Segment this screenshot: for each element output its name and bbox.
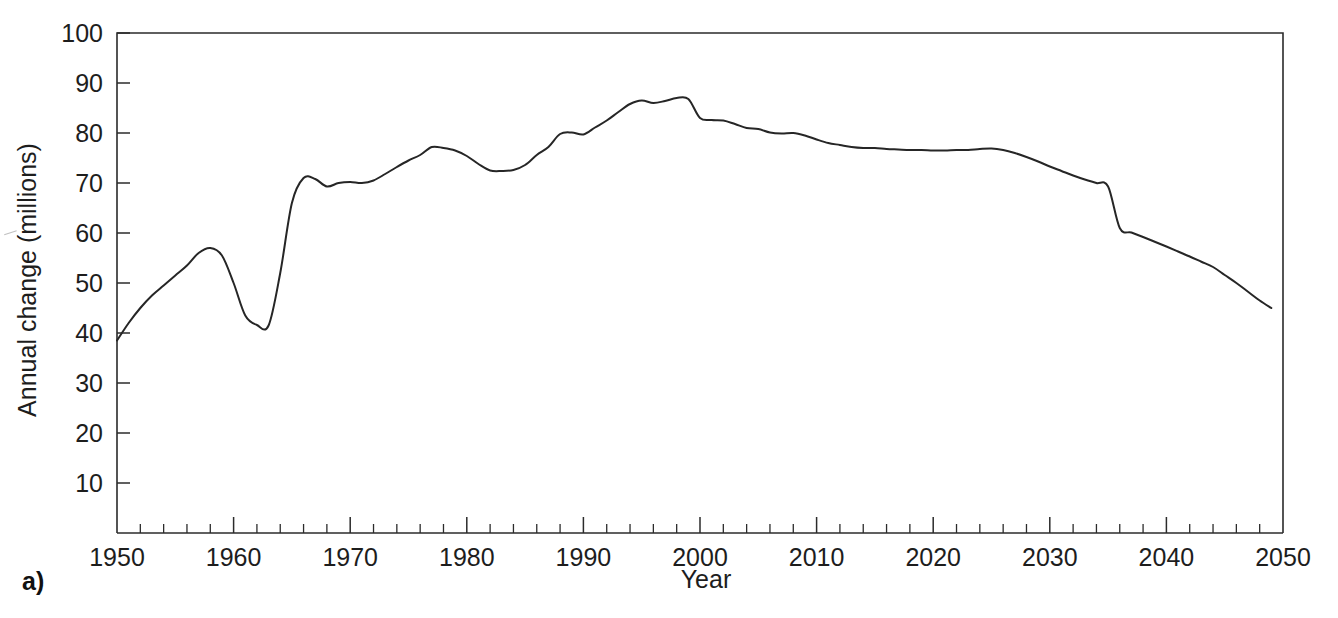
x-tick-label: 2020 [905,543,961,571]
x-tick-label: 2030 [1022,543,1078,571]
y-tick-label: 50 [75,269,103,297]
y-tick-label: 90 [75,69,103,97]
y-tick-label: 80 [75,119,103,147]
y-axis-title: Annual change (millions) [13,143,41,417]
y-tick-label: 100 [61,19,103,47]
x-tick-label: 2040 [1139,543,1195,571]
y-tick-label: 60 [75,219,103,247]
x-tick-label: 1960 [206,543,262,571]
y-tick-label: 20 [75,419,103,447]
axes [117,33,1283,533]
x-tick-label: 1970 [322,543,378,571]
line-chart: 1020304050607080901001950196019701980199… [0,0,1338,618]
x-tick-label: 1980 [439,543,495,571]
y-tick-label: 40 [75,319,103,347]
panel-label-a: a) [22,567,45,596]
data-series [117,97,1271,340]
axis-tick-labels: 1020304050607080901001950196019701980199… [61,19,1311,571]
y-tick-label: 30 [75,369,103,397]
x-tick-label: 1950 [89,543,145,571]
series-line-annual-change [117,97,1271,340]
figure-panel-a: 1020304050607080901001950196019701980199… [0,0,1338,618]
x-tick-label: 1990 [556,543,612,571]
x-axis-title: Year [681,565,732,593]
y-tick-label: 70 [75,169,103,197]
y-tick-label: 10 [75,469,103,497]
plot-frame [117,33,1283,533]
x-tick-label: 2050 [1255,543,1311,571]
axis-ticks [117,33,1260,533]
x-tick-label: 2010 [789,543,845,571]
